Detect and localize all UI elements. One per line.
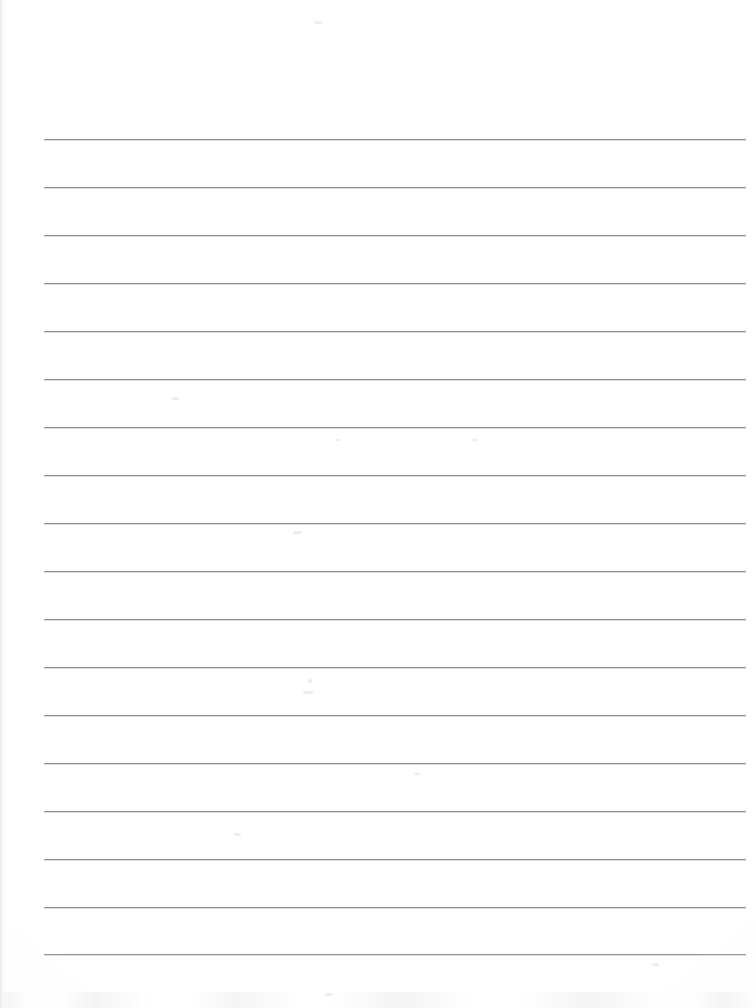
- rule-line: [44, 523, 746, 524]
- rule-line: [44, 427, 746, 428]
- rule-line: [44, 763, 746, 764]
- scanned-page: [0, 0, 756, 1008]
- ruled-lines-group: [0, 0, 756, 1008]
- rule-line: [44, 571, 746, 572]
- rule-line: [44, 667, 746, 668]
- rule-line: [44, 331, 746, 332]
- rule-line: [44, 619, 746, 620]
- rule-line: [44, 379, 746, 380]
- page-body-text: [44, 139, 746, 140]
- rule-line: [44, 907, 746, 908]
- rule-line: [44, 954, 746, 955]
- rule-line: [44, 187, 746, 188]
- rule-line: [44, 715, 746, 716]
- rule-line: [44, 811, 746, 812]
- rule-line: [44, 235, 746, 236]
- rule-line: [44, 475, 746, 476]
- rule-line: [44, 859, 746, 860]
- rule-line: [44, 283, 746, 284]
